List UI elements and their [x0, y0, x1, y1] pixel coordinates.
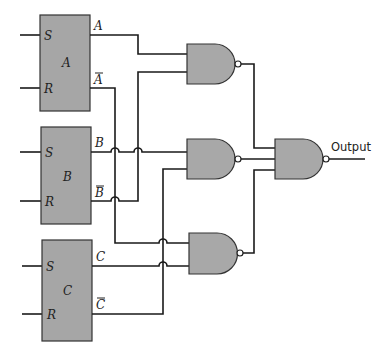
ff-a-qbar-label: A	[93, 73, 103, 87]
wire-a-to-nand1	[90, 35, 188, 54]
flip-flop-a: S R A A A	[20, 15, 103, 111]
wire-bbar-to-nand1	[91, 72, 188, 201]
wire-b-to-nand2	[91, 148, 188, 152]
ff-b-qbar-label: B	[94, 186, 104, 200]
nand-gate-4	[275, 139, 329, 179]
nand-gate-1-body	[187, 44, 235, 84]
nand-gate-2	[187, 139, 241, 179]
ff-a-name-label: A	[61, 56, 71, 70]
nand-gate-2-bubble	[235, 156, 241, 162]
nand-gate-2-body	[187, 139, 235, 179]
nand-gate-3-body	[189, 233, 237, 274]
nand-gate-1-bubble	[235, 61, 241, 67]
ff-c-s-label: S	[46, 260, 54, 274]
ff-b-name-label: B	[62, 170, 72, 184]
flip-flop-c: S R C C C	[22, 240, 105, 341]
wire-abar-to-nand3	[90, 88, 190, 243]
ff-c-q-label: C	[96, 250, 105, 264]
ff-c-qbar-label: C	[96, 298, 105, 312]
flip-flop-b: S R B B B	[20, 127, 104, 224]
nand-gate-3	[189, 233, 243, 274]
ff-a-r-label: R	[43, 82, 53, 96]
ff-b-r-label: R	[44, 195, 54, 209]
wire-nand1-to-nand4	[241, 64, 276, 148]
circuit-diagram: S R A A A S R B B B S R C C C	[0, 0, 385, 354]
nand-gate-1	[187, 44, 241, 84]
wire-cbar-to-nand2	[92, 169, 188, 314]
ff-a-s-label: S	[44, 29, 52, 43]
ff-c-r-label: R	[46, 308, 56, 322]
output-label: Output	[331, 140, 371, 154]
ff-b-s-label: S	[45, 146, 53, 160]
ff-c-name-label: C	[63, 284, 72, 298]
wire-c-to-nand3	[92, 262, 190, 266]
ff-b-q-label: B	[94, 136, 104, 150]
nand-gate-4-body	[275, 139, 323, 179]
nand-gate-4-bubble	[323, 156, 329, 162]
ff-a-q-label: A	[93, 19, 103, 33]
nand-gate-3-bubble	[237, 250, 243, 256]
wire-nand3-to-nand4	[243, 170, 276, 253]
